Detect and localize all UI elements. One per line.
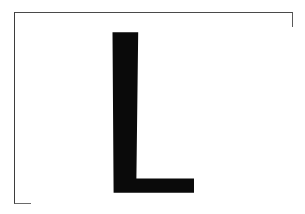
card-border-frame: [14, 12, 293, 204]
letter-card-canvas: L: [0, 0, 305, 214]
card-interior-surface: [31, 27, 305, 214]
